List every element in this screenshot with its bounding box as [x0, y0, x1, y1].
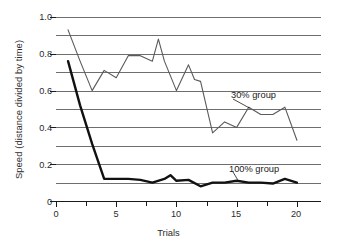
gridlines [56, 18, 321, 184]
line-chart: Speed (distance divided by time) 1.0 0.8… [0, 0, 337, 250]
plot-area [0, 0, 337, 250]
x-axis-ticks [57, 202, 298, 207]
series-annotation-100-percent: 100% group [229, 164, 279, 174]
annotation-leader-line-30 [233, 99, 250, 108]
series-annotation-30-percent: 30% group [231, 90, 276, 100]
series-line-30-percent [68, 30, 297, 140]
y-axis-ticks [50, 18, 56, 202]
